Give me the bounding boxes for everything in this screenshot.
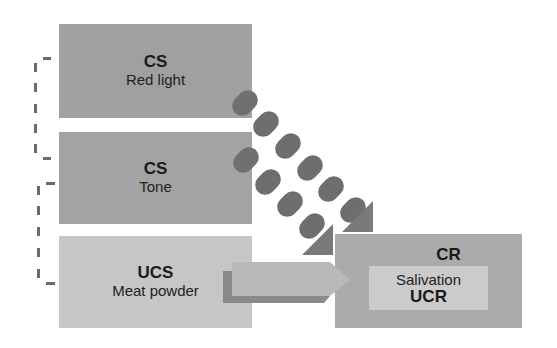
diagram-graphics — [0, 0, 557, 348]
ucs-to-cr-arrow-icon — [223, 262, 350, 303]
dashed-bracket-icon — [34, 57, 55, 285]
